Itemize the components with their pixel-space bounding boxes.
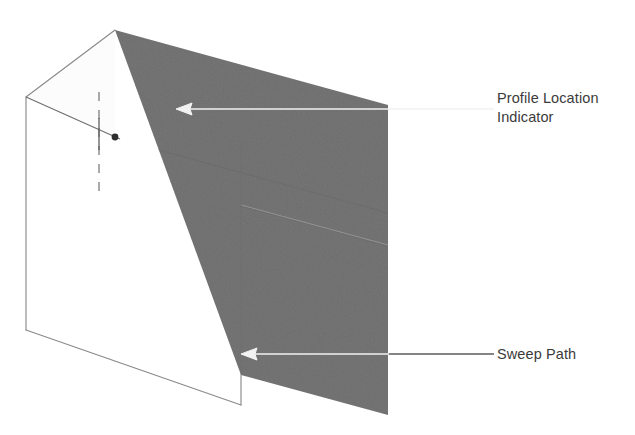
sweep-profile-diagram: [0, 0, 635, 435]
diagram-canvas: Profile Location Indicator Sweep Path: [0, 0, 635, 435]
sweep-path-label: Sweep Path: [497, 345, 576, 364]
profile-location-indicator-label: Profile Location Indicator: [497, 89, 599, 127]
profile-origin-point: [112, 134, 119, 141]
